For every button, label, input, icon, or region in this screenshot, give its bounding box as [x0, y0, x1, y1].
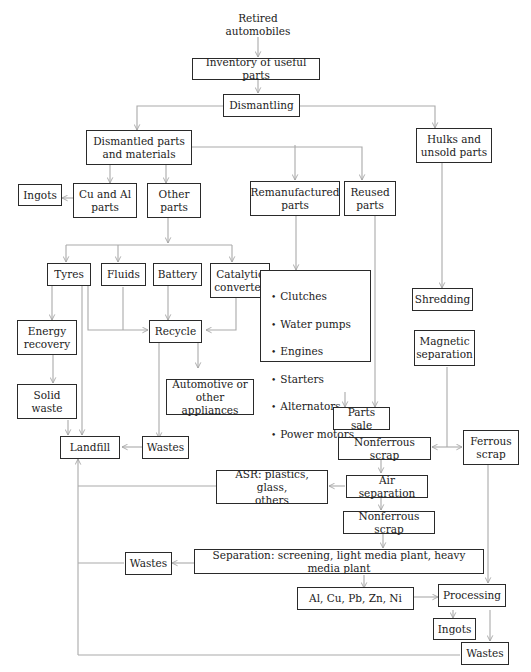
node-cu-al-parts: Cu and Al parts — [73, 183, 137, 218]
list-item: Water pumps — [271, 318, 354, 333]
node-magnetic-separation: Magnetic separation — [414, 330, 475, 366]
node-wastes-bottom: Wastes — [461, 642, 509, 665]
list-item: Clutches — [271, 290, 354, 305]
node-ingots-top: Ingots — [18, 184, 62, 206]
list-item: Engines — [271, 345, 354, 360]
node-parts-sale: Parts sale — [333, 407, 390, 430]
node-air-separation: Air separation — [346, 475, 428, 498]
node-dismantling: Dismantling — [223, 94, 300, 117]
node-solid-waste: Solid waste — [17, 384, 77, 419]
node-ingots-bottom: Ingots — [433, 618, 476, 640]
node-tyres: Tyres — [47, 263, 91, 286]
node-automotive-appliances: Automotive or other appliances — [166, 379, 254, 415]
list-item: Starters — [271, 373, 354, 388]
recycling-flowchart: Retired automobiles Inventory of useful … — [0, 0, 531, 672]
node-landfill: Landfill — [60, 436, 120, 459]
node-reused: Reused parts — [344, 181, 396, 216]
node-ferrous-scrap: Ferrous scrap — [463, 430, 519, 465]
node-fluids: Fluids — [101, 263, 146, 286]
node-inventory: Inventory of useful parts — [192, 58, 320, 80]
node-wastes-left: Wastes — [125, 552, 172, 575]
node-hulks: Hulks and unsold parts — [416, 128, 492, 163]
node-processing: Processing — [438, 584, 506, 607]
node-energy-recovery: Energy recovery — [17, 320, 77, 355]
node-remanufactured-list: Clutches Water pumps Engines Starters Al… — [260, 270, 371, 362]
node-metals: Al, Cu, Pb, Zn, Ni — [297, 587, 414, 610]
node-shredding: Shredding — [412, 288, 473, 311]
node-remanufactured: Remanufactured parts — [250, 181, 340, 216]
node-nonferrous-scrap-1: Nonferrous scrap — [338, 437, 431, 460]
node-battery: Battery — [153, 263, 202, 286]
node-retired-automobiles: Retired automobiles — [220, 12, 296, 38]
node-separation: Separation: screening, light media plant… — [194, 549, 484, 574]
node-recycle: Recycle — [149, 320, 202, 343]
node-asr: ASR: plastics, glass, others — [216, 470, 328, 504]
node-nonferrous-scrap-2: Nonferrous scrap — [343, 511, 435, 534]
node-wastes-mid: Wastes — [142, 436, 189, 459]
node-dismantled-parts: Dismantled parts and materials — [86, 130, 192, 165]
node-other-parts: Other parts — [147, 183, 201, 218]
